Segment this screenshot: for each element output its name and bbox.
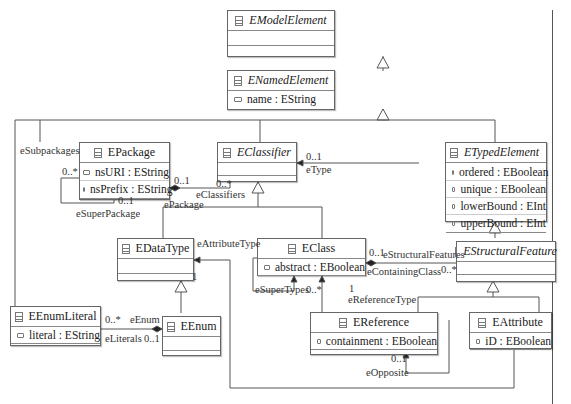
attribute: nsURI : EString xyxy=(80,164,169,181)
role-ereferencetype: eReferenceType xyxy=(348,294,416,305)
class-header: EEnumLiteral xyxy=(11,307,100,327)
attribute: iD : EBoolean xyxy=(470,333,551,350)
role-eclassifiers: eClassifiers xyxy=(196,189,245,200)
attribute-compartment: nsURI : EString nsPrefix : EString xyxy=(80,163,169,199)
class-header: EStructuralFeature xyxy=(457,242,555,262)
role-etype: eType xyxy=(306,164,332,175)
attribute-label: iD : EBoolean xyxy=(485,333,551,349)
class-header: EPackage xyxy=(80,143,169,163)
attribute-compartment xyxy=(118,259,193,274)
attribute-icon xyxy=(83,187,85,192)
class-icon xyxy=(122,244,130,254)
role-eattributetype: eAttributeType xyxy=(197,238,260,249)
mult-ereferencetype: 1 xyxy=(349,283,354,294)
mult-esubpackages: 0..* xyxy=(62,166,78,177)
class-icon xyxy=(167,322,175,332)
attribute: unique : EBoolean xyxy=(446,181,546,198)
attribute-compartment xyxy=(163,337,220,351)
attribute: containment : EBoolean xyxy=(311,333,437,350)
class-name: EAttribute xyxy=(492,315,543,330)
attribute-icon xyxy=(452,204,455,209)
attribute-icon xyxy=(452,170,454,175)
mult-eattributetype: 1 xyxy=(192,271,197,282)
class-eattribute[interactable]: EAttribute iD : EBoolean xyxy=(469,312,552,349)
attribute-label: upperBound : EInt xyxy=(460,215,546,231)
class-name: EClassifier xyxy=(237,145,291,160)
class-etypedelement[interactable]: ETypedElement ordered : EBoolean unique … xyxy=(445,142,547,222)
class-icon xyxy=(288,244,296,254)
class-eenum[interactable]: EEnum xyxy=(162,316,221,356)
attribute-compartment xyxy=(457,262,555,275)
attribute-icon xyxy=(234,97,242,102)
role-epackage: ePackage xyxy=(164,199,204,210)
class-header: EDataType xyxy=(118,239,193,259)
class-emodelelement[interactable]: EModelElement xyxy=(227,10,335,57)
attribute-label: name : EString xyxy=(247,91,316,107)
class-icon xyxy=(223,148,231,158)
role-esuperpackage: eSuperPackage xyxy=(76,208,140,219)
class-name: ENamedElement xyxy=(248,73,329,88)
class-epackage[interactable]: EPackage nsURI : EString nsPrefix : EStr… xyxy=(79,142,170,200)
class-header: EModelElement xyxy=(228,11,334,31)
class-icon xyxy=(94,148,102,158)
class-name: EPackage xyxy=(108,145,155,160)
mult-econtainingclass: 0..* xyxy=(441,264,457,275)
class-header: EAttribute xyxy=(470,313,551,333)
attribute: upperBound : EInt xyxy=(446,215,546,231)
class-name: EClass xyxy=(302,241,335,256)
attribute-label: containment : EBoolean xyxy=(326,333,437,349)
role-estructuralfeatures: eStructuralFeatures xyxy=(383,249,465,260)
attribute-icon xyxy=(317,339,321,344)
ecore-class-diagram: EModelElement ENamedElement name : EStri… xyxy=(0,0,571,404)
class-icon xyxy=(15,312,23,322)
attribute-icon xyxy=(476,339,480,344)
class-name: EModelElement xyxy=(249,13,326,28)
class-edatatype[interactable]: EDataType xyxy=(117,238,194,281)
role-esubpackages: eSubpackages xyxy=(20,145,79,156)
class-name: EStructuralFeature xyxy=(463,244,557,259)
role-esupertypes: eSuperTypes xyxy=(255,284,309,295)
attribute: ordered : EBoolean xyxy=(446,164,546,181)
attribute-label: lowerBound : EInt xyxy=(460,198,546,214)
class-icon xyxy=(450,148,458,158)
attribute: abstract : EBoolean xyxy=(258,259,365,276)
role-econtainingclass: eContainingClass xyxy=(367,266,441,277)
mult-eenum: 0..1 xyxy=(144,333,160,344)
class-header: EClassifier xyxy=(218,143,296,163)
mult-esupertypes: 0..* xyxy=(306,284,322,295)
attribute-icon xyxy=(452,221,455,226)
attribute-icon xyxy=(264,265,270,270)
class-icon xyxy=(234,76,242,86)
mult-eopposite: 0..1 xyxy=(391,353,407,364)
mult-etype: 0..1 xyxy=(306,151,322,162)
class-name: ETypedElement xyxy=(464,145,539,160)
attribute-compartment xyxy=(218,163,296,176)
attribute: lowerBound : EInt xyxy=(446,198,546,215)
class-name: EDataType xyxy=(136,241,190,256)
mult-eliterals: 0..* xyxy=(105,314,121,325)
class-name: EEnumLiteral xyxy=(29,309,97,324)
class-eclass[interactable]: EClass abstract : EBoolean xyxy=(257,238,366,276)
attribute: literal : EString xyxy=(11,327,100,344)
class-eenumliteral[interactable]: EEnumLiteral literal : EString xyxy=(10,306,101,346)
class-icon xyxy=(478,318,486,328)
class-header: EClass xyxy=(258,239,365,259)
class-header: EReference xyxy=(311,313,437,333)
attribute-label: abstract : EBoolean xyxy=(275,259,365,275)
mult-eclassifiers: 0..* xyxy=(216,178,232,189)
class-estructuralfeature[interactable]: EStructuralFeature xyxy=(456,241,556,282)
class-eclassifier[interactable]: EClassifier xyxy=(217,142,297,182)
class-header: EEnum xyxy=(163,317,220,337)
attribute-compartment: ordered : EBoolean unique : EBoolean low… xyxy=(446,163,546,233)
class-enamedelement[interactable]: ENamedElement name : EString xyxy=(227,70,335,110)
role-eenum: eEnum xyxy=(130,314,160,325)
mult-epackage: 0..1 xyxy=(174,175,190,186)
attribute-icon xyxy=(17,333,24,338)
attribute-compartment xyxy=(228,31,334,46)
attribute-icon xyxy=(83,170,90,175)
class-name: EReference xyxy=(353,315,409,330)
role-eopposite: eOpposite xyxy=(366,367,409,378)
attribute-icon xyxy=(452,187,455,192)
class-ereference[interactable]: EReference containment : EBoolean xyxy=(310,312,438,355)
attribute: name : EString xyxy=(228,91,334,107)
